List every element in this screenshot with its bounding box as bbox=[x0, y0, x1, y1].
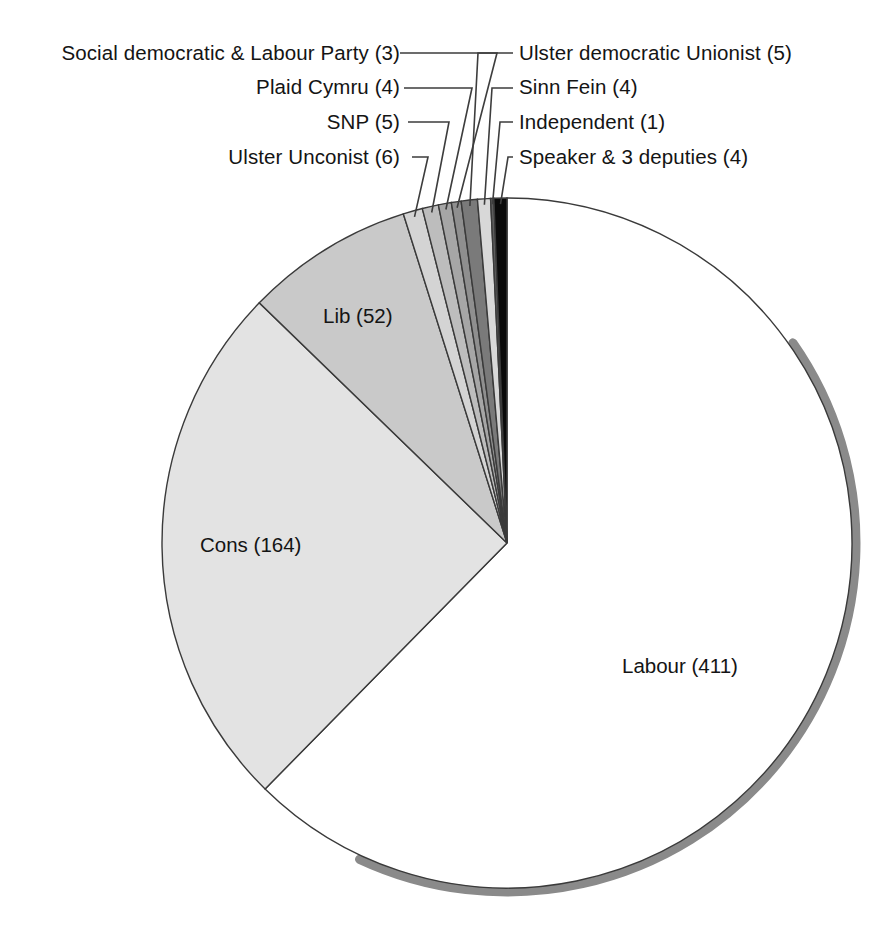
callout-label-sinn-fein: Sinn Fein (4) bbox=[519, 74, 638, 100]
slice-label-lib: Lib (52) bbox=[323, 303, 393, 329]
slice-label-labour: Labour (411) bbox=[622, 653, 738, 679]
leader-lines-group bbox=[400, 53, 513, 217]
callout-label-ulster-unconist: Ulster Unconist (6) bbox=[10, 144, 400, 170]
callout-label-speaker-3-deputies: Speaker & 3 deputies (4) bbox=[519, 144, 748, 170]
pie-chart-canvas bbox=[0, 0, 888, 944]
leader-line-sinn-fein bbox=[484, 88, 513, 205]
callout-label-ulster-democratic-unionist: Ulster democratic Unionist (5) bbox=[519, 40, 792, 66]
pie-chart-figure: Social democratic & Labour Party (3) Pla… bbox=[0, 0, 888, 944]
slice-label-cons: Cons (164) bbox=[200, 532, 301, 558]
leader-line-snp bbox=[408, 122, 449, 213]
callout-label-plaid-cymru: Plaid Cymru (4) bbox=[10, 74, 400, 100]
callout-label-independent: Independent (1) bbox=[519, 109, 665, 135]
callout-label-snp: SNP (5) bbox=[10, 109, 400, 135]
leader-line-social-democratic-labour-party bbox=[400, 53, 497, 208]
leader-line-speaker-3-deputies bbox=[501, 157, 514, 204]
callout-label-social-democratic-labour-party: Social democratic & Labour Party (3) bbox=[10, 40, 400, 66]
